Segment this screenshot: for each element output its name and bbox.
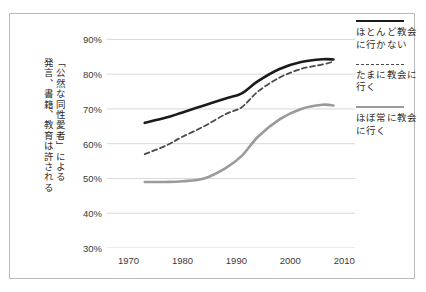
legend-swatch-line-icon bbox=[356, 106, 404, 108]
caption-column-2: 発言、書籍、教育は許される bbox=[43, 58, 54, 258]
caption-column-1: 「公然な同性愛者」による bbox=[55, 58, 66, 258]
series-layer bbox=[145, 59, 334, 182]
chart-page: 「公然な同性愛者」による 発言、書籍、教育は許される 30%40%50%60%7… bbox=[0, 0, 426, 292]
chart-legend: ほとんど教会 に行かない たまに教会に 行く ほぼ常に教会 に行く bbox=[356, 20, 418, 150]
legend-label-line-2: に行かない bbox=[356, 39, 418, 52]
y-tick-label: 30% bbox=[83, 243, 102, 254]
y-tick-label: 50% bbox=[83, 173, 102, 184]
legend-label-line-2: に行く bbox=[356, 125, 418, 138]
legend-swatch-line-icon bbox=[356, 64, 404, 65]
legend-label: ほとんど教会 に行かない bbox=[356, 26, 418, 52]
legend-label-line-1: ほとんど教会 bbox=[356, 26, 418, 39]
legend-label-line-2: 行く bbox=[356, 81, 418, 94]
y-tick-label: 60% bbox=[83, 138, 102, 149]
legend-swatch-line-icon bbox=[356, 20, 404, 22]
y-tick-label: 80% bbox=[83, 69, 102, 80]
legend-item: たまに教会に 行く bbox=[356, 64, 418, 95]
y-tick-label: 40% bbox=[83, 208, 102, 219]
x-tick-label: 1990 bbox=[226, 255, 247, 266]
legend-label-line-1: ほぼ常に教会 bbox=[356, 112, 418, 125]
gridlines bbox=[107, 39, 355, 248]
legend-item: ほとんど教会 に行かない bbox=[356, 20, 418, 52]
plot-area: 30%40%50%60%70%80%90% 197019801990200020… bbox=[107, 22, 355, 248]
chart-canvas bbox=[107, 22, 355, 248]
x-tick-label: 2000 bbox=[280, 255, 301, 266]
legend-label-line-1: たまに教会に bbox=[356, 69, 418, 82]
legend-item: ほぼ常に教会 に行く bbox=[356, 106, 418, 138]
legend-label: たまに教会に 行く bbox=[356, 69, 418, 95]
x-tick-label: 1980 bbox=[172, 255, 193, 266]
legend-label: ほぼ常に教会 に行く bbox=[356, 112, 418, 138]
y-tick-label: 90% bbox=[83, 34, 102, 45]
y-tick-label: 70% bbox=[83, 103, 102, 114]
vertical-caption: 「公然な同性愛者」による 発言、書籍、教育は許される bbox=[18, 58, 66, 258]
x-tick-label: 2010 bbox=[334, 255, 355, 266]
x-tick-label: 1970 bbox=[118, 255, 139, 266]
